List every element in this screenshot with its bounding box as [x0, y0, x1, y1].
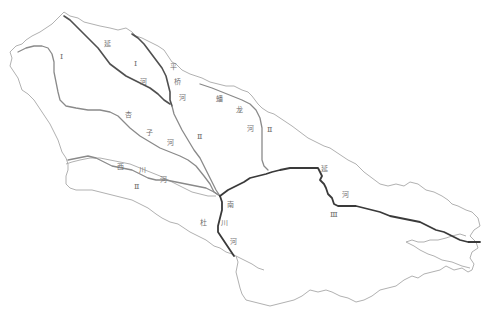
zone-label-3: Ⅲ [330, 211, 338, 219]
label-panlong-1: 蟠 [216, 96, 223, 103]
label-du: 杜 [200, 220, 207, 227]
label-xingzi-1: 杏 [125, 112, 132, 119]
zone-label-2-south: Ⅱ [134, 183, 139, 191]
label-pingqiao-3: 河 [179, 95, 186, 102]
label-nanchuan-3: 河 [230, 239, 237, 246]
watershed-boundary [10, 12, 480, 306]
river-panlong [200, 84, 268, 170]
zone-label-1-north: Ⅰ [134, 60, 137, 68]
label-xingzi-3: 河 [167, 140, 174, 147]
river-yanhe-upper [64, 16, 170, 104]
zone-label-1-west: Ⅰ [60, 53, 63, 61]
subbasin-boundary-east-bottom-2 [406, 242, 470, 268]
label-xichuan-3: 河 [160, 177, 167, 184]
label-nanchuan-1: 南 [227, 202, 234, 209]
label-nanchuan-2: 川 [221, 220, 228, 227]
label-xingzi-2: 子 [146, 130, 153, 137]
label-yanhe-lower-2: 河 [342, 192, 349, 199]
label-pingqiao-1: 平 [170, 64, 177, 71]
river-pingqiao [132, 34, 172, 106]
label-panlong-3: 河 [247, 126, 254, 133]
watershed-map [0, 0, 486, 322]
label-yanhe-upper-1: 延 [104, 41, 111, 48]
label-xichuan-2: 川 [139, 167, 146, 174]
label-panlong-2: 龙 [236, 107, 243, 114]
zone-label-2-center: Ⅱ [197, 133, 202, 141]
subbasin-boundary-south [236, 256, 264, 270]
label-xichuan-1: 西 [117, 164, 124, 171]
label-yanhe-lower-1: 延 [321, 166, 328, 173]
zone-label-2-east: Ⅱ [267, 126, 272, 134]
label-yanhe-upper-2: 河 [140, 79, 147, 86]
label-pingqiao-2: 桥 [174, 79, 181, 86]
river-yanhe-main [220, 168, 480, 242]
